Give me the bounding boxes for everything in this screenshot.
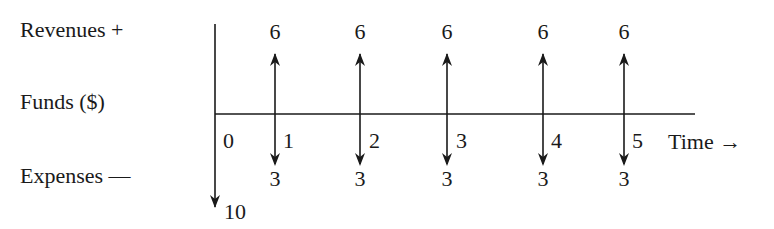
period-label: 3 [456, 128, 467, 153]
revenue-value: 6 [355, 19, 366, 44]
time-axis-label: Time → [668, 129, 741, 154]
cash-flow-svg: Revenues + Funds ($) Expenses — 0 10 6 3… [0, 0, 774, 229]
expense-value: 3 [442, 166, 453, 191]
period-1-flows: 6 3 1 [270, 19, 295, 191]
expense-value: 3 [619, 166, 630, 191]
revenue-value: 6 [442, 19, 453, 44]
period-4-flows: 6 3 4 [538, 19, 563, 191]
period-label: 1 [283, 128, 294, 153]
expense-value: 3 [355, 166, 366, 191]
revenues-label: Revenues + [20, 17, 123, 42]
cash-flow-diagram: Revenues + Funds ($) Expenses — 0 10 6 3… [0, 0, 774, 229]
period-label: 2 [369, 128, 380, 153]
period-5-flows: 6 3 5 [619, 19, 644, 191]
revenue-value: 6 [619, 19, 630, 44]
period-label: 4 [551, 128, 562, 153]
expense-value: 3 [538, 166, 549, 191]
revenue-value: 6 [538, 19, 549, 44]
period-2-flows: 6 3 2 [355, 19, 381, 191]
expense-value: 3 [270, 166, 281, 191]
period-3-flows: 6 3 3 [442, 19, 468, 191]
period-label: 5 [632, 128, 643, 153]
revenue-value: 6 [270, 19, 281, 44]
initial-outflow-value: 10 [224, 199, 246, 224]
period-label-0: 0 [223, 128, 234, 153]
funds-label: Funds ($) [20, 89, 105, 114]
expenses-label: Expenses — [20, 163, 132, 188]
